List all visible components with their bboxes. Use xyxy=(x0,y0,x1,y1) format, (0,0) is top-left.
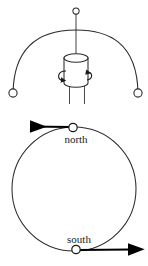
north-point-marker xyxy=(69,123,77,131)
upper-panel xyxy=(9,8,142,104)
south-velocity-arrow-icon xyxy=(80,250,130,251)
cylinder-top-cap xyxy=(64,54,88,62)
lower-panel: north south xyxy=(12,123,136,253)
left-bob-icon xyxy=(9,89,17,97)
pivot-point-icon xyxy=(73,8,79,14)
foucault-pendulum-figure: north south xyxy=(0,0,148,266)
north-label: north xyxy=(64,133,88,145)
north-velocity-arrow-icon xyxy=(30,127,70,128)
south-point-marker xyxy=(72,245,80,253)
right-bob-icon xyxy=(134,89,142,97)
south-label: south xyxy=(67,233,91,245)
